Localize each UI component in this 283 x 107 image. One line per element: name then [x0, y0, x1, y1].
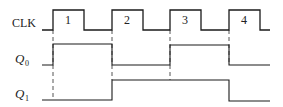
clock-pulse-1-label: 1 — [65, 13, 71, 27]
clk-label: CLK — [12, 16, 36, 30]
svg-text:Q: Q — [15, 51, 25, 66]
svg-text:1: 1 — [25, 94, 29, 103]
clock-pulse-2-label: 2 — [124, 13, 130, 27]
q0-label: Q 0 — [15, 51, 29, 68]
timing-diagram-canvas: CLK Q 0 Q 1 1 2 3 4 — [0, 0, 283, 107]
timing-diagram: CLK Q 0 Q 1 1 2 3 4 — [0, 0, 283, 107]
clock-pulse-4-label: 4 — [241, 13, 247, 27]
q1-waveform — [42, 80, 270, 101]
svg-text:Q: Q — [15, 86, 25, 101]
q0-waveform — [42, 44, 270, 65]
q1-label: Q 1 — [15, 86, 29, 103]
svg-text:0: 0 — [25, 59, 29, 68]
clock-pulse-3-label: 3 — [182, 13, 188, 27]
clk-waveform — [42, 10, 270, 30]
